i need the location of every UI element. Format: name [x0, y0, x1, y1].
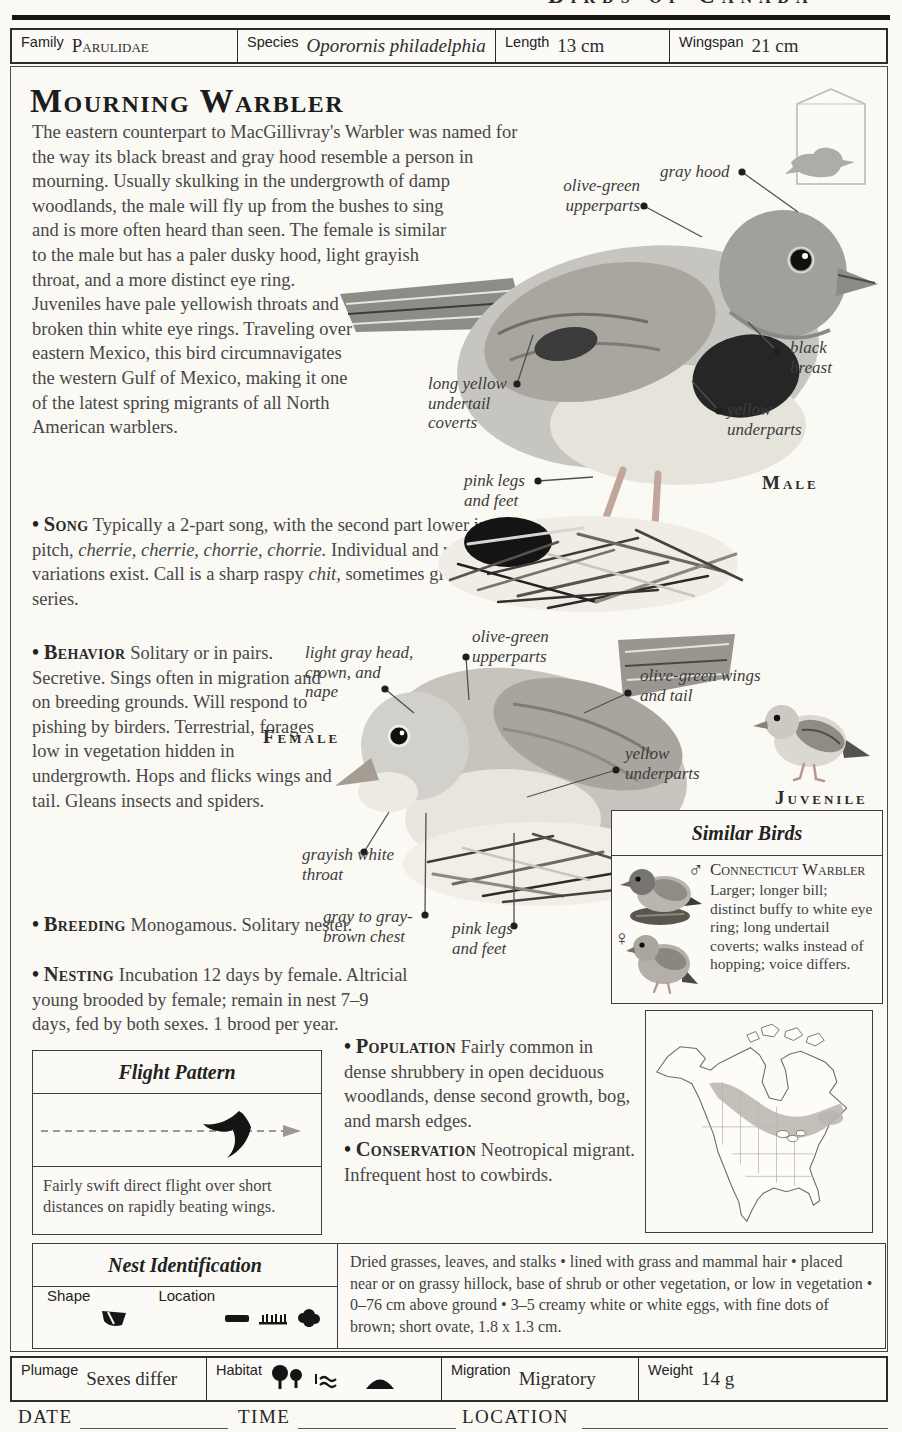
behavior-heading: Behavior	[44, 641, 126, 663]
nest-location-icons	[225, 1306, 325, 1328]
range-map	[646, 1011, 871, 1231]
nest-shape-icon	[100, 1306, 130, 1328]
similar-species-name: Connecticut Warbler	[710, 860, 875, 879]
shape-label: Shape	[47, 1287, 90, 1304]
juvenile-caption: Juvenile	[775, 787, 868, 809]
location-label: Location	[158, 1287, 215, 1304]
length-value: 13 cm	[557, 35, 604, 57]
conservation-bullet: •	[344, 1138, 351, 1160]
section-nesting: • Nesting Incubation 12 days by female. …	[32, 962, 664, 1037]
habitat-icons	[270, 1362, 420, 1396]
running-header-clip: Birds of Canada	[548, 0, 898, 9]
wingspan-label: Wingspan	[679, 34, 743, 50]
spec-bar: Family Parulidae Species Oporornis phila…	[10, 28, 888, 64]
nest-id-title: Nest Identification	[33, 1244, 337, 1287]
breeding-heading: Breeding	[44, 913, 126, 935]
section-conservation: • Conservation Neotropical migrant. Infr…	[344, 1137, 639, 1187]
female-label-upperparts: olive-green upperparts	[472, 627, 577, 666]
wingspan-cell: Wingspan 21 cm	[670, 30, 886, 62]
range-map-panel	[645, 1010, 873, 1233]
nest-description: Dried grasses, leaves, and stalks • line…	[338, 1244, 885, 1344]
similar-birds-body: ♂ ♀ Connecticut Warbler Larger; longer b…	[612, 856, 882, 1004]
song-italic-2: chit,	[308, 564, 340, 584]
page-title: Mourning Warbler	[30, 82, 344, 120]
female-label-legs: pink legs and feet	[452, 919, 532, 958]
male-caption: Male	[762, 472, 819, 494]
section-population: • Population Fairly common in dense shru…	[344, 1034, 639, 1133]
migration-value: Migratory	[519, 1368, 596, 1390]
family-value: Parulidae	[72, 35, 149, 57]
male-label-legs: pink legs and feet	[464, 471, 544, 510]
nest-id-right-cell: Dried grasses, leaves, and stalks • line…	[338, 1244, 885, 1348]
behavior-bullet: •	[32, 641, 39, 663]
nesting-heading: Nesting	[44, 963, 115, 985]
similar-birds-panel: Similar Birds ♂	[611, 810, 883, 1004]
wingspan-value: 21 cm	[751, 35, 798, 57]
migration-label: Migration	[451, 1362, 511, 1378]
plumage-value: Sexes differ	[86, 1368, 177, 1390]
flight-pattern-title: Flight Pattern	[33, 1051, 321, 1094]
plumage-cell: Plumage Sexes differ	[12, 1358, 207, 1400]
length-label: Length	[505, 34, 549, 50]
location-line	[582, 1428, 888, 1429]
female-caption: Female	[263, 726, 340, 748]
running-header: Birds of Canada	[548, 0, 815, 9]
top-rule	[12, 15, 890, 20]
flight-pattern-description: Fairly swift direct flight over short di…	[33, 1167, 321, 1225]
female-label-throat: grayish white throat	[302, 845, 397, 884]
male-label-black-breast: black breast	[790, 338, 860, 377]
nest-id-icons-row: Shape Location	[33, 1287, 337, 1347]
flight-path-icon	[33, 1095, 317, 1165]
family-label: Family	[21, 34, 64, 50]
weight-value: 14 g	[701, 1368, 734, 1390]
similar-species-description: Larger; longer bill; distinct buffy to w…	[710, 881, 875, 974]
breeding-bullet: •	[32, 913, 39, 935]
date-label: DATE	[18, 1406, 73, 1428]
habitat-cell: Habitat	[207, 1358, 442, 1400]
male-symbol: ♂	[688, 858, 704, 883]
section-breeding: • Breeding Monogamous. Solitary nester.	[32, 912, 372, 938]
male-label-undertail: long yellow undertail coverts	[428, 374, 516, 433]
habitat-label: Habitat	[216, 1362, 262, 1378]
nesting-bullet: •	[32, 963, 39, 985]
plumage-label: Plumage	[21, 1362, 78, 1378]
female-label-wings-tail: olive-green wings and tail	[640, 666, 765, 705]
song-heading: Song	[44, 513, 89, 535]
conservation-heading: Conservation	[356, 1138, 477, 1160]
field-guide-page: Birds of Canada Family Parulidae Species…	[0, 0, 902, 1432]
flight-pattern-diagram	[33, 1094, 321, 1167]
family-cell: Family Parulidae	[12, 30, 238, 62]
species-cell: Species Oporornis philadelphia	[238, 30, 496, 62]
female-symbol: ♀	[614, 926, 630, 951]
nest-id-left-cell: Nest Identification Shape Location	[33, 1244, 338, 1348]
section-population-conservation: • Population Fairly common in dense shru…	[344, 1034, 639, 1188]
location-label-footer: LOCATION	[462, 1406, 569, 1428]
migration-cell: Migration Migratory	[442, 1358, 639, 1400]
population-bullet: •	[344, 1035, 351, 1057]
similar-birds-text: Connecticut Warbler Larger; longer bill;…	[710, 860, 875, 974]
species-value: Oporornis philadelphia	[307, 35, 486, 57]
song-bullet: •	[32, 513, 39, 535]
male-label-gray-hood: gray hood	[660, 162, 738, 182]
species-label: Species	[247, 34, 299, 50]
breeding-text: Monogamous. Solitary nester.	[130, 915, 352, 935]
female-label-chest: gray to gray-brown chest	[323, 907, 435, 946]
male-label-upperparts: olive-green upperparts	[540, 176, 640, 215]
population-heading: Population	[356, 1035, 456, 1057]
flight-pattern-panel: Flight Pattern Fairly swift direct fligh…	[32, 1050, 322, 1235]
male-label-yellow-underparts: yellow underparts	[727, 400, 822, 439]
female-label-underparts: yellow underparts	[625, 744, 717, 783]
male-bird-illustration	[338, 182, 878, 612]
bookmark-card-icon	[783, 84, 875, 188]
date-line	[80, 1428, 228, 1429]
song-italic-1: cherrie, cherrie, chorrie, chorrie.	[78, 540, 326, 560]
connecticut-female-thumbnail	[626, 932, 698, 996]
time-line	[298, 1428, 456, 1429]
juvenile-bird-illustration	[752, 696, 872, 784]
bottom-data-bar: Plumage Sexes differ Habitat Migration M…	[10, 1356, 888, 1402]
time-label: TIME	[238, 1406, 290, 1428]
weight-cell: Weight 14 g	[639, 1358, 886, 1400]
similar-birds-title: Similar Birds	[612, 811, 882, 856]
nest-identification-panel: Nest Identification Shape Location	[32, 1243, 886, 1349]
length-cell: Length 13 cm	[496, 30, 670, 62]
